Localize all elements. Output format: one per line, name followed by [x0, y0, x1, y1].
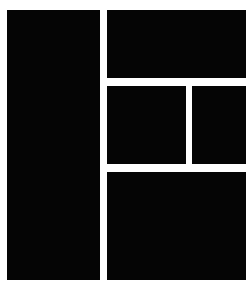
content-right-panel-block[interactable] [192, 86, 246, 164]
sidebar-panel-block[interactable] [7, 10, 100, 280]
header-banner-panel-block[interactable] [107, 10, 246, 78]
wireframe-canvas [0, 0, 252, 290]
content-left-panel-block[interactable] [107, 86, 186, 164]
footer-panel-block[interactable] [107, 172, 246, 280]
